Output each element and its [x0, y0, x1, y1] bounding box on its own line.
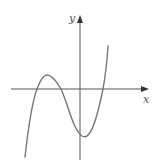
y-axis-arrow-icon [77, 15, 83, 23]
cubic-curve [25, 46, 108, 157]
y-axis [77, 15, 83, 160]
y-axis-label: y [68, 12, 76, 25]
cubic-graph: x y [0, 0, 156, 166]
x-axis-arrow-icon [141, 86, 149, 92]
x-axis-label: x [143, 93, 150, 106]
